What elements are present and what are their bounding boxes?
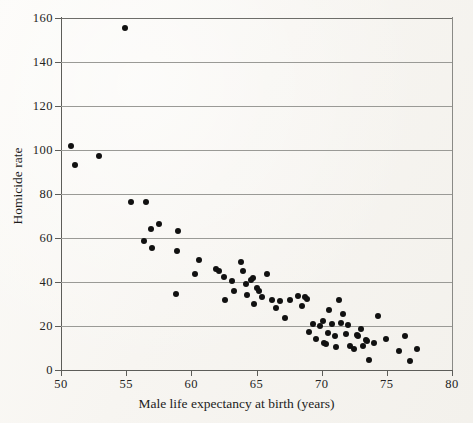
data-point [282,315,288,321]
y-axis-title: Homicide rate [8,96,28,276]
data-point [72,162,78,168]
gridline-140 [61,62,452,63]
x-axis-title: Male life expectancy at birth (years) [0,396,473,412]
data-point [216,268,222,274]
data-point [192,271,198,277]
data-point [325,330,331,336]
data-point [128,199,134,205]
data-point [333,344,339,350]
data-point [264,271,270,277]
gridline-160 [61,18,452,19]
data-point [231,288,237,294]
data-point [251,301,257,307]
x-tick-label-75: 75 [380,377,394,392]
data-point [396,348,402,354]
data-point [343,331,349,337]
x-tick-label-60: 60 [185,377,199,392]
gridline-20 [61,326,452,327]
x-tick-label-70: 70 [315,377,329,392]
plot-area [61,18,452,370]
data-point [338,320,344,326]
data-point [323,341,329,347]
data-point [250,275,256,281]
data-point [351,346,357,352]
data-point [317,323,323,329]
data-point [244,292,250,298]
data-point [355,333,361,339]
data-point [141,238,147,244]
data-point [375,313,381,319]
data-point [295,293,301,299]
data-point [238,259,244,265]
data-point [340,311,346,317]
data-point [269,297,275,303]
data-point [149,245,155,251]
data-point [143,199,149,205]
x-tick-70 [322,370,323,376]
x-tick-80 [452,370,453,376]
data-point [310,321,316,327]
x-tick-label-65: 65 [250,377,264,392]
data-point [174,248,180,254]
data-point [358,326,364,332]
x-tick-60 [191,370,192,376]
data-point [414,346,420,352]
data-point [326,307,332,313]
data-point [221,274,227,280]
gridline-100 [61,150,452,151]
y-tick-label-160: 160 [7,11,53,26]
data-point [313,336,319,342]
y-tick-label-40: 40 [7,275,53,290]
data-point [332,333,338,339]
x-tick-55 [126,370,127,376]
data-point [306,329,312,335]
plot-right-border [452,17,453,371]
x-tick-label-55: 55 [119,377,133,392]
data-point [402,333,408,339]
x-tick-label-50: 50 [54,377,68,392]
gridline-120 [61,106,452,107]
data-point [277,298,283,304]
data-point [259,294,265,300]
data-point [68,143,74,149]
x-tick-75 [387,370,388,376]
scatter-plot-figure: 020406080100120140160 50556065707580 Hom… [0,0,473,423]
data-point [96,153,102,159]
data-point [273,305,279,311]
data-point [222,297,228,303]
y-tick-label-0: 0 [7,363,53,378]
data-point [364,338,370,344]
data-point [173,291,179,297]
data-point [148,226,154,232]
data-point [256,288,262,294]
data-point [407,358,413,364]
data-point [304,296,310,302]
x-tick-50 [61,370,62,376]
data-point [229,278,235,284]
data-point [371,340,377,346]
data-point [366,357,372,363]
data-point [345,322,351,328]
y-axis-title-text: Homicide rate [10,148,26,225]
data-point [336,297,342,303]
x-tick-65 [257,370,258,376]
gridline-80 [61,194,452,195]
data-point [156,221,162,227]
gridline-40 [61,282,452,283]
data-point [196,257,202,263]
data-point [329,321,335,327]
y-tick-label-140: 140 [7,55,53,70]
data-point [383,336,389,342]
data-point [240,268,246,274]
gridline-60 [61,238,452,239]
y-tick-label-20: 20 [7,319,53,334]
data-point [320,318,326,324]
data-point [287,297,293,303]
data-point [299,303,305,309]
x-tick-label-80: 80 [445,377,459,392]
data-point [122,25,128,31]
data-point [175,228,181,234]
